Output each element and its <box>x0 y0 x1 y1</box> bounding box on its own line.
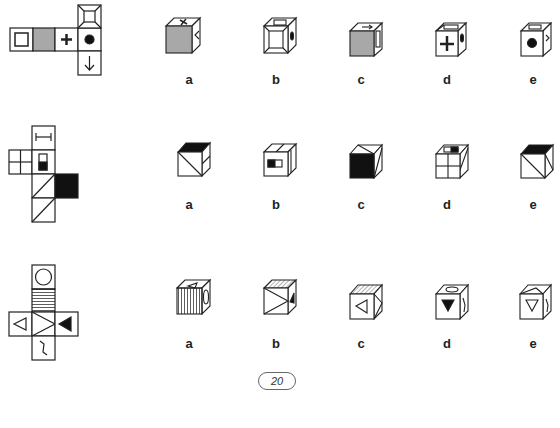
net-3 <box>9 265 78 360</box>
page-number: 20 <box>258 372 296 390</box>
option-1d-cube[interactable] <box>436 23 466 56</box>
option-1a-cube[interactable] <box>166 18 200 53</box>
option-3d-label: d <box>437 336 457 351</box>
option-2e-label: e <box>523 197 543 212</box>
option-3a-cube[interactable] <box>177 280 210 314</box>
option-1c-label: c <box>351 72 371 87</box>
option-1e-label: e <box>523 72 543 87</box>
option-3b-label: b <box>266 336 286 351</box>
option-2b-label: b <box>266 197 286 212</box>
option-2a-cube[interactable] <box>178 143 210 176</box>
option-3a-label: a <box>179 336 199 351</box>
option-2c-label: c <box>351 197 371 212</box>
option-1d-label: d <box>437 72 457 87</box>
puzzle-canvas <box>0 0 560 428</box>
option-2d-cube[interactable] <box>436 145 468 178</box>
option-3e-cube[interactable] <box>520 285 551 319</box>
option-3c-cube[interactable] <box>350 285 382 319</box>
option-1b-cube[interactable] <box>264 18 296 53</box>
net-2 <box>9 126 78 222</box>
option-1c-cube[interactable] <box>350 23 382 56</box>
option-2c-cube[interactable] <box>350 145 382 178</box>
option-3e-label: e <box>523 336 543 351</box>
option-3d-cube[interactable] <box>436 285 468 319</box>
option-2e-cube[interactable] <box>521 145 553 178</box>
option-1b-label: b <box>266 72 286 87</box>
option-1e-cube[interactable] <box>521 23 551 56</box>
option-2d-label: d <box>437 197 457 212</box>
option-3b-cube[interactable] <box>264 280 296 314</box>
net-1 <box>10 5 101 75</box>
option-2b-cube[interactable] <box>264 144 296 176</box>
option-3c-label: c <box>351 336 371 351</box>
option-2a-label: a <box>179 197 199 212</box>
option-1a-label: a <box>179 72 199 87</box>
